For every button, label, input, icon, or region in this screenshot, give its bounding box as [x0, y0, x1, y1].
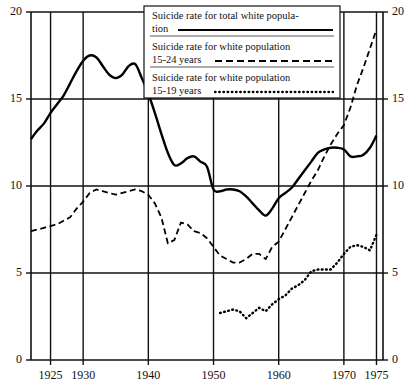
y-axis-right-label-5: 5 [392, 265, 398, 279]
legend-item-0-line2: tion [152, 23, 169, 34]
x-axis-label-1925: 1925 [39, 368, 63, 382]
legend-item-2-line1: Suicide rate for white population [152, 72, 291, 83]
x-axis-label-1940: 1940 [136, 368, 160, 382]
y-axis-left-label-15: 15 [10, 91, 22, 105]
y-axis-left-labels: 05101520 [10, 4, 22, 366]
x-axis-labels: 1925193019401950196019701975 [39, 368, 389, 382]
legend-item-1-line1: Suicide rate for white population [152, 41, 291, 52]
y-axis-left-label-5: 5 [16, 265, 22, 279]
y-axis-right-labels: 05101520 [392, 4, 404, 366]
chart-container: 05101520 05101520 1925193019401950196019… [0, 0, 414, 389]
y-axis-right-label-0: 0 [392, 352, 398, 366]
x-axis-label-1960: 1960 [267, 368, 291, 382]
x-axis-label-1970: 1970 [332, 368, 356, 382]
legend-item-1-line2: 15-24 years [152, 54, 201, 65]
y-axis-right-label-20: 20 [392, 4, 404, 18]
y-axis-right-label-10: 10 [392, 178, 404, 192]
x-axis-label-1930: 1930 [71, 368, 95, 382]
legend-item-0-line1: Suicide rate for total white popula- [152, 10, 299, 21]
x-axis-label-1950: 1950 [202, 368, 226, 382]
legend-item-2-line2: 15-19 years [152, 85, 201, 96]
y-axis-left-label-0: 0 [16, 352, 22, 366]
x-axis-label-1975: 1975 [364, 368, 388, 382]
y-axis-left-label-10: 10 [10, 178, 22, 192]
suicide-rate-line-chart: 05101520 05101520 1925193019401950196019… [0, 0, 414, 389]
y-axis-left-label-20: 20 [10, 4, 22, 18]
chart-legend: Suicide rate for total white popula- tio… [144, 6, 340, 98]
y-axis-right-label-15: 15 [392, 91, 404, 105]
